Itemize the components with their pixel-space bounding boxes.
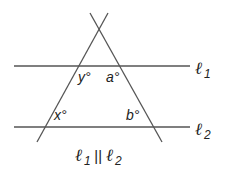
line-l1-subscript: 1	[204, 67, 211, 81]
caption-sub2: 2	[114, 154, 122, 168]
line-l2-subscript: 2	[203, 128, 211, 142]
caption-parallel: ||	[94, 147, 102, 164]
angle-a-label: a°	[106, 69, 120, 85]
caption-l1: ℓ	[75, 146, 82, 165]
line-l2-label: ℓ	[195, 120, 202, 139]
caption-l2: ℓ	[106, 146, 113, 165]
angle-b-label: b°	[126, 107, 140, 123]
angle-x-label: x°	[53, 107, 67, 123]
parallel-caption: ℓ 1 || ℓ 2	[75, 146, 122, 168]
line-l1-label: ℓ	[195, 59, 202, 78]
transversal-left	[37, 13, 108, 142]
angle-y-label: y°	[77, 69, 91, 85]
caption-sub1: 1	[84, 154, 91, 168]
parallel-lines-diagram: y° a° x° b° ℓ 1 ℓ 2 ℓ 1 || ℓ 2	[0, 0, 226, 178]
